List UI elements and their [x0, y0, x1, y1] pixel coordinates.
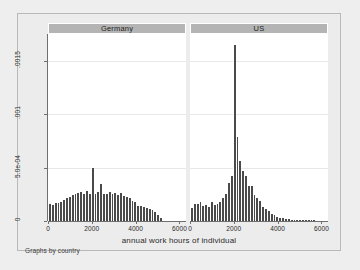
x-tick-mark — [92, 221, 93, 224]
x-tick-label: 4000 — [265, 225, 291, 232]
x-tick-mark — [321, 221, 322, 224]
x-axis-line — [190, 221, 328, 222]
plot-area-germany — [48, 34, 186, 221]
y-tick-mark — [44, 221, 47, 222]
panel-germany: Germany — [48, 23, 186, 221]
x-tick-label: 0 — [35, 225, 61, 232]
x-axis-title: annual work hours of individual — [18, 236, 340, 245]
panel-header-germany: Germany — [48, 23, 186, 34]
figure-note: Graphs by country — [25, 247, 80, 254]
x-tick-mark — [234, 221, 235, 224]
panel-us: US — [190, 23, 328, 221]
x-tick-mark — [278, 221, 279, 224]
panel-header-label: US — [191, 24, 327, 33]
plot-area-us — [190, 34, 328, 221]
histogram-bars — [190, 34, 328, 221]
x-tick-label: 0 — [177, 225, 203, 232]
x-axis-line — [48, 221, 186, 222]
x-tick-label: 2000 — [221, 225, 247, 232]
x-tick-mark — [179, 221, 180, 224]
x-tick-label: 4000 — [123, 225, 149, 232]
x-tick-label: 2000 — [79, 225, 105, 232]
y-tick-label: .001 — [14, 90, 21, 136]
figure-frame: Density 05.0e-04.001.0015 GermanyUS 0200… — [17, 13, 341, 251]
histogram-bars — [48, 34, 186, 221]
x-tick-mark — [136, 221, 137, 224]
x-tick-label: 6000 — [308, 225, 334, 232]
x-tick-mark — [190, 221, 191, 224]
panel-header-us: US — [190, 23, 328, 34]
y-tick-label: .0015 — [14, 36, 21, 82]
panel-header-label: Germany — [49, 24, 185, 33]
y-tick-label: 5.0e-04 — [14, 143, 21, 189]
x-tick-mark — [48, 221, 49, 224]
